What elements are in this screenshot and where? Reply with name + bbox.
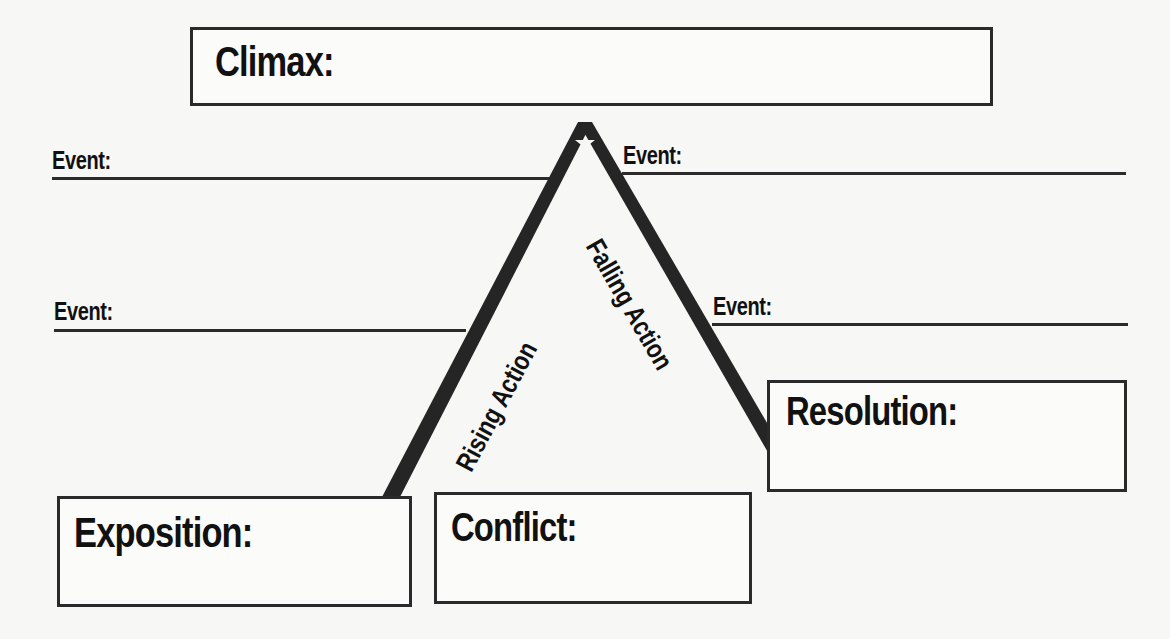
conflict-label: Conflict: [451, 505, 577, 550]
plot-diagram-worksheet: Climax: Event: Event: Event: Event: Risi… [0, 0, 1170, 639]
left-event-1-line[interactable] [52, 177, 549, 180]
climax-label: Climax: [215, 38, 334, 86]
exposition-label: Exposition: [74, 509, 252, 557]
resolution-box[interactable]: Resolution: [767, 380, 1127, 492]
right-event-1-line[interactable] [622, 172, 1126, 175]
resolution-label: Resolution: [786, 389, 957, 434]
exposition-box[interactable]: Exposition: [57, 496, 412, 607]
conflict-box[interactable]: Conflict: [434, 492, 752, 604]
left-event-1-label: Event: [52, 146, 111, 175]
left-event-2-label: Event: [54, 297, 113, 326]
left-event-2-line[interactable] [54, 329, 466, 332]
right-event-2-line[interactable] [712, 323, 1128, 326]
right-event-1-label: Event: [623, 141, 682, 170]
right-event-2-label: Event: [713, 292, 772, 321]
climax-box[interactable]: Climax: [190, 27, 993, 106]
